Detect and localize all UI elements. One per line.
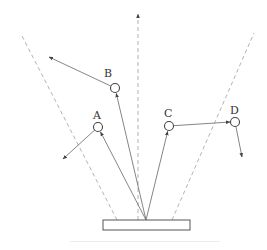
particle-c-label: C bbox=[164, 107, 172, 120]
right-boundary-dashed-line bbox=[172, 33, 254, 220]
scattered-ray-c bbox=[173, 122, 230, 126]
particle-d-circle bbox=[231, 118, 240, 127]
source-plate bbox=[103, 220, 190, 230]
incident-rays bbox=[101, 93, 168, 220]
particle-c-circle bbox=[165, 122, 174, 131]
diagram-canvas: ABCD bbox=[0, 0, 267, 250]
incident-ray-c bbox=[146, 131, 168, 220]
particle-b-circle bbox=[111, 84, 120, 93]
scattered-ray-d bbox=[236, 126, 242, 157]
scattered-ray-a bbox=[63, 130, 95, 159]
scattered-ray-b bbox=[49, 57, 111, 86]
particles: ABCD bbox=[92, 67, 240, 132]
particle-a-label: A bbox=[92, 109, 102, 122]
particle-b-label: B bbox=[104, 67, 112, 80]
incident-ray-b bbox=[116, 93, 146, 220]
incident-ray-a bbox=[101, 132, 146, 220]
caption-faint bbox=[70, 238, 220, 244]
particle-a-circle bbox=[94, 123, 103, 132]
particle-d-label: D bbox=[230, 104, 239, 117]
